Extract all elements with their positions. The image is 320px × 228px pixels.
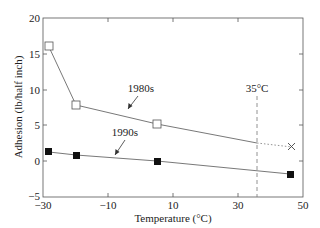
plot-frame — [43, 18, 303, 197]
annotation-1990s: 1990s — [112, 126, 138, 138]
annotation-1980s: 1980s — [128, 82, 154, 94]
svg-text:30: 30 — [233, 199, 245, 211]
ticks — [43, 18, 303, 197]
x-tick-labels: −30 −10 10 30 50 — [34, 199, 309, 211]
x-axis-label: Temperature (°C) — [134, 212, 212, 225]
svg-text:50: 50 — [298, 199, 310, 211]
svg-text:5: 5 — [35, 119, 41, 131]
svg-text:−5: −5 — [28, 190, 40, 202]
y-tick-labels: −5 0 5 10 15 20 — [28, 12, 40, 202]
svg-text:−10: −10 — [99, 199, 117, 211]
svg-text:0: 0 — [35, 155, 41, 167]
svg-text:10: 10 — [29, 84, 41, 96]
svg-text:10: 10 — [168, 199, 180, 211]
svg-text:15: 15 — [29, 48, 41, 60]
series-1980s-extrapolation — [257, 143, 292, 147]
series-1980s-line — [49, 47, 257, 143]
y-axis-label: Adhesion (lb/half inch) — [12, 55, 25, 158]
chart-svg: −30 −10 10 30 50 −5 0 5 10 15 20 Tempera… — [0, 0, 320, 228]
svg-text:20: 20 — [29, 12, 41, 24]
threshold-35c-label: 35°C — [246, 82, 269, 94]
chart: −30 −10 10 30 50 −5 0 5 10 15 20 Tempera… — [0, 0, 320, 228]
series-1990s-line — [49, 152, 290, 174]
